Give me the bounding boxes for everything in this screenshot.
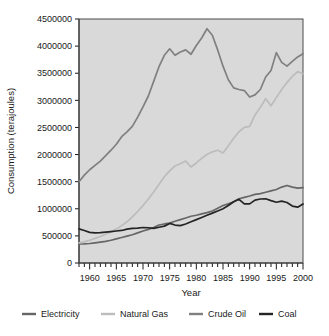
y-tick-label: 4500000 [37, 14, 72, 24]
y-tick-label: 1000000 [37, 204, 72, 214]
consumption-line-chart: 0500000100000015000002000000250000030000… [0, 0, 329, 336]
y-tick-label: 3000000 [37, 96, 72, 106]
x-axis-title: Year [181, 287, 200, 298]
plot-background [79, 19, 303, 263]
x-tick-label: 1970 [133, 273, 153, 283]
y-axis-ticks: 0500000100000015000002000000250000030000… [37, 14, 79, 268]
chart-page: 0500000100000015000002000000250000030000… [0, 0, 329, 336]
y-tick-label: 4000000 [37, 41, 72, 51]
x-tick-label: 2000 [293, 273, 313, 283]
x-tick-label: 1965 [106, 273, 126, 283]
x-axis-ticks: 196019651970197519801985199019952000 [79, 263, 313, 283]
legend-label-electricity: Electricity [41, 309, 80, 319]
legend-label-coal: Coal [278, 309, 297, 319]
y-tick-label: 0 [67, 258, 72, 268]
legend-label-crude-oil: Crude Oil [208, 309, 246, 319]
x-tick-label: 1985 [213, 273, 233, 283]
y-tick-label: 2000000 [37, 150, 72, 160]
x-tick-label: 1960 [80, 273, 100, 283]
x-tick-label: 1980 [186, 273, 206, 283]
x-tick-label: 1975 [160, 273, 180, 283]
y-tick-label: 1500000 [37, 177, 72, 187]
y-axis-title: Consumption (terajoules) [5, 88, 16, 194]
y-tick-label: 500000 [42, 231, 72, 241]
y-tick-label: 3500000 [37, 68, 72, 78]
y-tick-label: 2500000 [37, 123, 72, 133]
x-tick-label: 1990 [240, 273, 260, 283]
legend-label-natural-gas: Natural Gas [120, 309, 169, 319]
x-tick-label: 1995 [266, 273, 286, 283]
chart-legend: ElectricityNatural GasCrude OilCoal [22, 309, 297, 319]
